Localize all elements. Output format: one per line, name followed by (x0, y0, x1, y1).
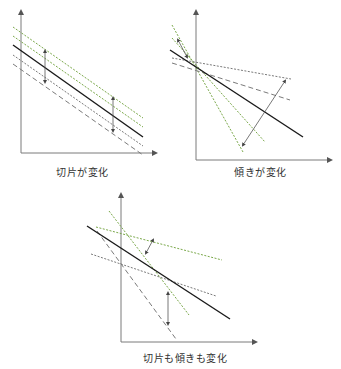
solid-regression-line (13, 45, 143, 137)
double-arrow (243, 81, 285, 145)
grey-dashed-line (13, 64, 143, 155)
caption-both-change: 切片も傾きも変化 (143, 350, 227, 365)
green-dashed-line (13, 36, 143, 127)
caption-slope-change: 傾きが変化 (234, 164, 287, 179)
grey-dashed-line (91, 254, 216, 296)
grey-dashed-line (13, 55, 143, 146)
green-dashed-line (172, 38, 265, 142)
diagram-canvas (0, 0, 341, 369)
double-arrow (146, 240, 153, 253)
solid-regression-line (170, 50, 303, 137)
panel-both (87, 195, 255, 342)
caption-intercept-change: 切片が変化 (56, 164, 109, 179)
double-arrow (178, 40, 187, 57)
panel-slope (170, 12, 330, 160)
green-dashed-line (172, 25, 243, 152)
panel-intercept (13, 12, 155, 155)
green-dashed-line (13, 27, 143, 118)
solid-regression-line (87, 226, 230, 319)
grey-dashed-line (97, 231, 176, 339)
